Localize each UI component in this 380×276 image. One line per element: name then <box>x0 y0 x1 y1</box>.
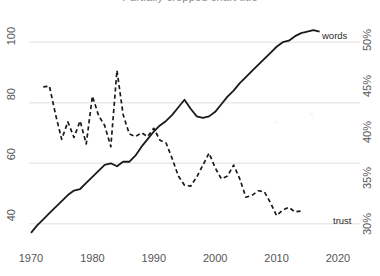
series-label-words: words <box>322 30 347 41</box>
series-line-trust <box>43 70 301 215</box>
series-line-words <box>31 30 320 233</box>
y-axis-right-tick-50%: 50% <box>361 25 373 55</box>
y-axis-left-tick-80: 80 <box>5 88 17 116</box>
y-axis-left-tick-100: 100 <box>5 27 17 55</box>
x-axis-tick-2000: 2000 <box>195 252 235 264</box>
artifact-speck-top: ▫ <box>302 30 305 39</box>
x-axis-tick-1970: 1970 <box>11 252 51 264</box>
y-axis-right-tick-35%: 35% <box>361 163 373 193</box>
x-axis-tick-2020: 2020 <box>318 252 358 264</box>
x-axis-tick-1990: 1990 <box>134 252 174 264</box>
artifact-speck-mid: ▫ <box>275 118 278 127</box>
artifact-speck-right: ▫ <box>310 110 313 119</box>
y-axis-right-tick-30%: 30% <box>361 209 373 239</box>
y-axis-left-tick-40: 40 <box>5 209 17 237</box>
y-axis-right-tick-45%: 45% <box>361 71 373 101</box>
y-axis-left-tick-60: 60 <box>5 148 17 176</box>
y-axis-right-tick-40%: 40% <box>361 117 373 147</box>
chart-container: Partially cropped chart title 4060801003… <box>0 0 380 276</box>
x-axis-tick-2010: 2010 <box>257 252 297 264</box>
line-chart-plot <box>0 0 380 276</box>
series-label-trust: trust <box>333 215 351 226</box>
x-axis-tick-1980: 1980 <box>72 252 112 264</box>
